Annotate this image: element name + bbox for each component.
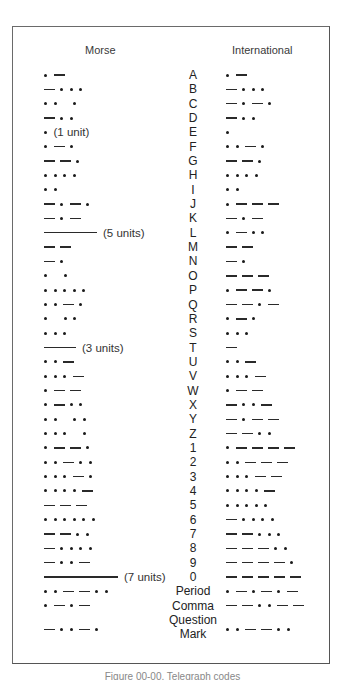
dot-symbol [236,504,239,507]
character-label: M [160,240,226,254]
code-row: 2 [0,455,345,469]
dot-symbol [268,289,271,292]
dash-symbol [293,605,304,606]
dash-symbol [63,462,74,463]
dash-symbol [277,605,288,606]
dot-symbol [236,475,239,478]
character-label: I [160,183,226,197]
code-row: Z [0,427,345,441]
character-label: 3 [160,470,226,484]
dash-symbol [70,218,81,219]
morse-code [44,154,86,168]
dot-symbol [54,375,57,378]
dash-symbol [63,361,74,362]
dot-symbol [226,174,229,177]
code-row: A [0,68,345,82]
dot-symbol [70,561,73,564]
international-code [226,355,261,369]
morse-code [44,427,92,441]
dot-symbol [242,418,245,421]
international-code [226,326,255,340]
dash-symbol [226,576,237,577]
dash-symbol [76,505,87,506]
dash-symbol [242,304,253,305]
morse-code [44,541,98,555]
dot-symbol [44,289,47,292]
character-label: Z [160,427,226,441]
dash-symbol [44,89,55,90]
dot-symbol [83,418,86,421]
code-row: Mark [0,627,345,641]
dot-symbol [44,418,47,421]
code-row: K [0,211,345,225]
dash-symbol [252,103,263,104]
international-code [226,527,287,541]
dash-symbol [44,629,55,630]
morse-code [44,111,79,125]
international-code [226,154,268,168]
long-dash-symbol [44,347,76,348]
dot-symbol [226,489,229,492]
code-table: ABCD(1 unit)EFGHIJK(5 units)LMNOPQRS(3 u… [0,68,345,642]
dash-symbol [242,548,253,549]
international-code [226,556,300,570]
unit-note: (5 units) [103,227,145,239]
dot-symbol [44,317,47,320]
morse-code [44,326,73,340]
dash-symbol [44,246,55,247]
code-row: I [0,183,345,197]
international-code [226,269,274,283]
code-row: X [0,398,345,412]
code-row: 9 [0,556,345,570]
dash-symbol [245,629,256,630]
dot-symbol [82,518,85,521]
dot-symbol [226,461,229,464]
dot-symbol [70,88,73,91]
dash-symbol [284,447,295,448]
dot-symbol [63,489,66,492]
dot-symbol [44,274,47,277]
character-label: Mark [160,627,226,641]
unit-note: (3 units) [82,342,124,354]
character-label: 8 [160,541,226,555]
dot-symbol [277,533,280,536]
dot-symbol [44,131,47,134]
character-label: 7 [160,527,226,541]
morse-code [44,498,92,512]
character-label: Comma [160,599,226,613]
dash-symbol [60,505,71,506]
dot-symbol [60,217,63,220]
dot-symbol [70,628,73,631]
dot-symbol [236,461,239,464]
dash-symbol [226,160,237,161]
dot-symbol [63,432,66,435]
code-row: 4 [0,484,345,498]
dash-symbol [54,404,65,405]
code-row: G [0,154,345,168]
dash-symbol [245,462,256,463]
dot-symbol [255,489,258,492]
dot-symbol [245,489,248,492]
character-label: Question [160,613,226,627]
dot-symbol [261,145,264,148]
morse-code [44,168,82,182]
dash-symbol [226,347,237,348]
dot-symbol [261,88,264,91]
dash-symbol [252,289,263,290]
dash-symbol [226,89,237,90]
figure-caption: Figure 00-00. Telegraph codes [0,671,345,680]
dot-symbol [79,88,82,91]
character-label: N [160,254,226,268]
code-row: M [0,240,345,254]
morse-code [44,584,114,598]
dot-symbol [277,590,280,593]
dot-symbol [277,628,280,631]
international-code [226,398,277,412]
morse-code [44,97,83,111]
dot-symbol [73,102,76,105]
code-row: 8 [0,541,345,555]
dot-symbol [86,446,89,449]
dot-symbol [54,174,57,177]
dot-symbol [255,504,258,507]
dot-symbol [76,160,79,163]
